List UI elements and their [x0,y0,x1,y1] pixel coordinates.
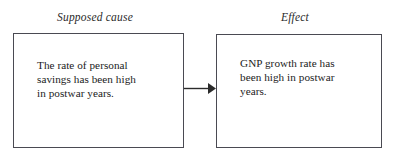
cause-box: The rate of personal savings has been hi… [13,33,184,148]
effect-box-text: GNP growth rate has been high in postwar… [240,56,376,98]
arrow-head [208,83,216,94]
diagram-canvas: Supposed cause Effect The rate of person… [0,0,394,158]
column-label-effect: Effect [281,12,309,24]
effect-box: GNP growth rate has been high in postwar… [216,34,382,148]
cause-box-text: The rate of personal savings has been hi… [37,58,177,100]
cause-to-effect-arrow-icon [183,80,218,98]
column-label-supposed-cause: Supposed cause [57,12,133,24]
